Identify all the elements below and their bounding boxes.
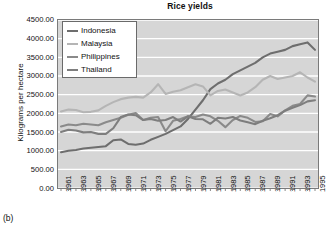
x-tick-label: 1969	[124, 176, 133, 193]
panel-label: (b)	[3, 213, 13, 223]
x-tick-label: 1967	[109, 176, 118, 193]
x-tick-label: 1995	[318, 176, 327, 193]
x-tick-label: 1987	[258, 176, 267, 193]
x-tick-label: 1981	[214, 176, 223, 193]
x-tick-label: 1983	[229, 176, 238, 193]
x-tick-label: 1971	[139, 176, 148, 193]
x-tick-label: 1993	[303, 176, 312, 193]
x-tick-label: 1975	[169, 176, 178, 193]
x-tick-label: 1979	[199, 176, 208, 193]
x-tick-label: 1963	[79, 176, 88, 193]
x-tick-label: 1985	[243, 176, 252, 193]
x-tick-label: 1989	[273, 176, 282, 193]
x-tick-label: 1991	[288, 176, 297, 193]
x-tick-label: 1965	[94, 176, 103, 193]
x-tick-label: 1977	[184, 176, 193, 193]
x-tick-label: 1973	[154, 176, 163, 193]
x-tick-label: 1961	[64, 176, 73, 193]
